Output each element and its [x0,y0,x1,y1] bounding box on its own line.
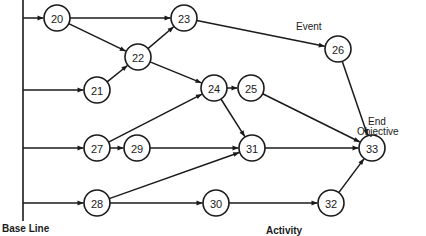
activity-arrow-32-to-33 [339,159,364,193]
event-node-number: 23 [178,13,190,25]
event-node-25: 25 [238,75,264,101]
event-node-number: 25 [245,83,257,95]
event-node-number: 33 [366,143,378,155]
event-node-31: 31 [239,135,265,161]
event-node-20: 20 [44,5,70,31]
activity-arrow-20-to-22 [69,24,126,52]
event-node-number: 31 [246,143,258,155]
event-node-number: 28 [91,198,103,210]
event-node-number: 20 [51,13,63,25]
activity-arrow-22-to-23 [148,27,174,49]
activity-arrow-24-to-31 [221,99,245,137]
event-node-number: 27 [91,143,103,155]
activity-arrow-25-to-33 [263,94,360,142]
activity-label: Activity [266,225,302,236]
event-node-23: 23 [171,5,197,31]
event-label: Event [296,21,322,32]
event-node-29: 29 [124,135,150,161]
end-objective-label-line2: Objective [357,126,399,137]
activity-arrow-27-to-24 [109,94,202,142]
event-node-number: 26 [332,44,344,56]
event-node-26: 26 [325,36,351,62]
event-node-21: 21 [84,77,110,103]
event-node-28: 28 [84,190,110,216]
base-line-label: Base Line [2,223,49,234]
event-node-33: 33 [359,135,385,161]
event-node-number: 30 [210,198,222,210]
event-node-32: 32 [318,190,344,216]
event-node-27: 27 [84,135,110,161]
event-node-number: 29 [131,143,143,155]
event-node-number: 32 [325,198,337,210]
activity-arrow-26-to-33 [342,61,367,135]
event-node-number: 22 [132,52,144,64]
activity-arrows [23,18,368,203]
pert-network-diagram: 2021222324252627282930313233 [0,0,426,236]
activity-arrow-21-to-22 [107,65,127,81]
event-node-number: 24 [208,83,220,95]
event-node-30: 30 [203,190,229,216]
activity-arrow-22-to-24 [150,62,201,83]
event-node-number: 21 [91,85,103,97]
event-node-24: 24 [201,75,227,101]
event-node-22: 22 [125,44,151,70]
